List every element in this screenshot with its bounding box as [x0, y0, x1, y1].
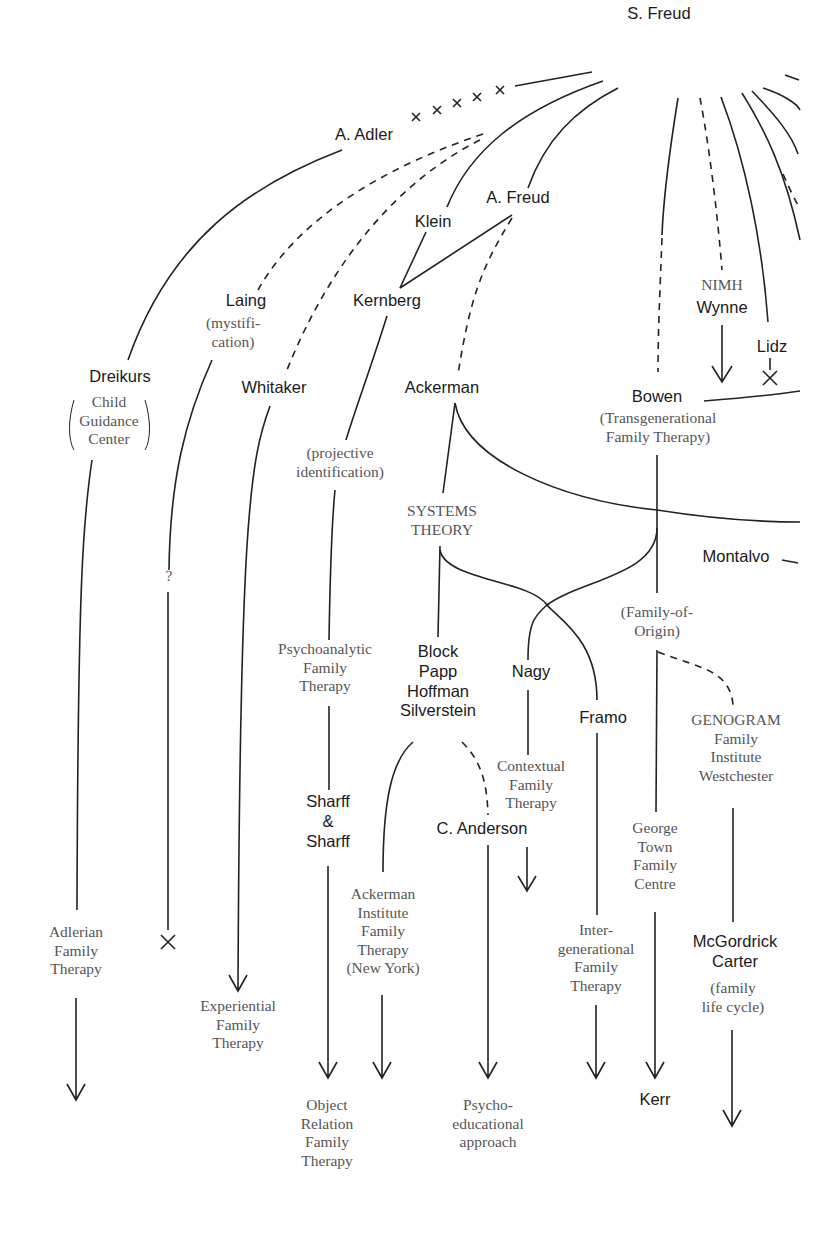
arrow-adlerian-out [67, 998, 85, 1100]
edge-freud-afreud [528, 88, 618, 188]
node-whitaker: Whitaker [241, 378, 306, 398]
edge-bowen-nagy [528, 528, 657, 660]
edge-origin-genogram [658, 652, 733, 705]
node-bowen-note: (Transgenerational Family Therapy) [600, 409, 717, 446]
paren-right-child-guidance [145, 400, 150, 450]
edge-lidz-end [763, 358, 777, 385]
edge-dreikurs-adlerian [77, 460, 92, 910]
node-kerr: Kerr [639, 1090, 670, 1110]
node-a-adler: A. Adler [335, 125, 393, 145]
node-s-freud: S. Freud [627, 4, 690, 24]
edge-bowen-right [704, 391, 800, 401]
node-contextual-family-therapy: Contextual Family Therapy [497, 757, 565, 813]
node-nimh: NIMH [701, 276, 742, 295]
node-klein: Klein [415, 212, 452, 232]
arrow-kerr [646, 912, 664, 1078]
arrow-intergenerational-out [587, 1005, 605, 1078]
node-laing: Laing [226, 291, 266, 311]
node-projective-identification: (projective identification) [296, 444, 384, 481]
edge-projective-psychoanalytic [329, 490, 335, 640]
node-mcgordrick-carter: McGordrick Carter [693, 932, 777, 972]
edge-block-canderson [462, 742, 488, 815]
edge-laing-question [169, 360, 212, 570]
paren-left-child-guidance [70, 400, 75, 450]
edge-freud-whitaker [285, 140, 480, 375]
node-lidz: Lidz [757, 337, 787, 357]
node-sharff-and-sharff: Sharff & Sharff [306, 792, 350, 851]
node-genogram-institute: GENOGRAM Family Institute Westchester [691, 711, 781, 785]
edge-systems-block [438, 546, 440, 637]
arrow-ackerman-institute-out [373, 995, 391, 1078]
node-nagy: Nagy [512, 662, 551, 682]
node-c-anderson: C. Anderson [437, 819, 528, 839]
edge-ackerman-systems [443, 403, 455, 493]
edge-sharff-objectrelation [319, 866, 337, 1078]
node-wynne: Wynne [696, 298, 747, 318]
node-ackerman: Ackerman [405, 378, 479, 398]
edge-block-ackerman-institute [383, 742, 413, 872]
edge-montalvo-offpage [782, 560, 798, 563]
node-psychoeducational-approach: Psycho- educational approach [452, 1096, 523, 1152]
node-ackerman-institute-family-therapy: Ackerman Institute Family Therapy (New Y… [346, 885, 419, 978]
node-family-of-origin: (Family-of- Origin) [621, 603, 693, 640]
node-psychoanalytic-family-therapy: Psychoanalytic Family Therapy [278, 640, 372, 696]
node-family-life-cycle: (family life cycle) [702, 979, 764, 1016]
node-dreikurs: Dreikurs [89, 367, 150, 387]
edge-afreud-ackerman [458, 218, 512, 374]
diagram-edges [0, 0, 840, 1233]
edge-whitaker-experiential [229, 406, 270, 991]
node-intergenerational-family-therapy: Inter- generational Family Therapy [558, 921, 635, 995]
edge-freud-offpage-5 [785, 75, 799, 80]
node-question-mark: ? [166, 567, 173, 586]
node-child-guidance-center: Child Guidance Center [79, 393, 138, 449]
edge-freud-adler [515, 72, 592, 86]
node-object-relation-family-therapy: Object Relation Family Therapy [301, 1096, 354, 1170]
arrow-psychoeducational [479, 845, 497, 1078]
node-adlerian-family-therapy: Adlerian Family Therapy [49, 923, 103, 979]
node-a-freud: A. Freud [486, 188, 549, 208]
node-framo: Framo [579, 708, 627, 728]
node-systems-theory: SYSTEMS THEORY [407, 502, 477, 539]
edge-kernberg-projective [346, 316, 387, 440]
arrow-contextual-out [518, 847, 536, 891]
node-george-town-family-centre: George Town Family Centre [632, 819, 677, 893]
node-kernberg: Kernberg [353, 291, 421, 311]
edge-freud-offpage-1 [742, 93, 800, 240]
node-laing-note: (mystifi- cation) [206, 314, 260, 351]
end-x-laing [161, 935, 175, 949]
edge-freud-bowen-dashed [658, 238, 662, 372]
node-experiential-family-therapy: Experiential Family Therapy [200, 997, 276, 1053]
node-block-papp-hoffman-silverstein: Block Papp Hoffman Silverstein [400, 642, 476, 721]
node-bowen: Bowen [632, 387, 682, 407]
edge-wynne-arrow [712, 325, 732, 382]
arrow-mcgoldrick-out [723, 1030, 741, 1126]
node-montalvo: Montalvo [703, 547, 770, 567]
edge-freud-nimh [700, 98, 722, 270]
edge-origin-georgetown [656, 650, 657, 812]
family-therapy-lineage-diagram: S. Freud A. Adler A. Freud Klein Laing (… [0, 0, 840, 1233]
edge-freud-bowen [662, 98, 678, 235]
edge-freud-offpage-4 [763, 88, 800, 110]
x-marks-adler-break [412, 86, 504, 121]
